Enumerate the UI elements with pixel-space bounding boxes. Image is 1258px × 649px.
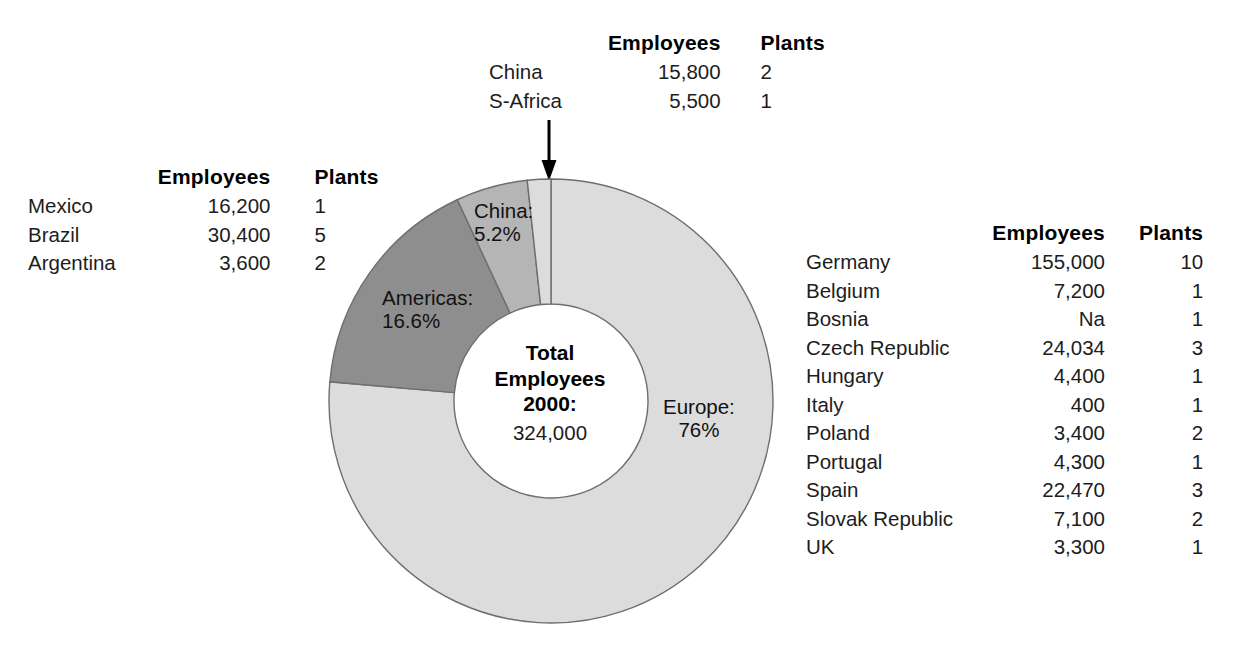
column-header-employees: Employees	[608, 32, 761, 62]
table-row: China 15,800 2	[489, 62, 827, 91]
cell-plants: 2	[761, 62, 827, 91]
table-row: Poland3,4002	[806, 423, 1203, 452]
cell-country: Poland	[806, 423, 979, 452]
cell-plants: 2	[1139, 509, 1203, 538]
slice-label-china-name: China:	[474, 199, 533, 222]
center-label-line3: 2000:	[452, 391, 648, 417]
cell-plants: 3	[1139, 480, 1203, 509]
table-europe-body: Germany155,00010Belgium7,2001BosniaNa1Cz…	[806, 252, 1203, 566]
column-header-region	[489, 32, 608, 62]
cell-country: Hungary	[806, 366, 979, 395]
arrow-down-glyph	[536, 120, 562, 182]
column-header-region	[28, 166, 158, 196]
cell-employees: 22,470	[979, 480, 1139, 509]
cell-plants: 1	[1139, 395, 1203, 424]
center-label-line2: Employees	[452, 366, 648, 392]
table-row: Hungary4,4001	[806, 366, 1203, 395]
cell-plants: 1	[1139, 281, 1203, 310]
center-label-line1: Total	[452, 340, 648, 366]
slice-label-americas: Americas: 16.6%	[382, 287, 473, 333]
cell-plants: 1	[761, 91, 827, 120]
table-row: Italy4001	[806, 395, 1203, 424]
slice-label-americas-percent: 16.6%	[382, 309, 440, 332]
cell-employees: 3,300	[979, 537, 1139, 566]
cell-plants: 1	[1139, 366, 1203, 395]
cell-employees: 4,400	[979, 366, 1139, 395]
slice-label-china-percent: 5.2%	[474, 222, 521, 245]
cell-employees: 3,600	[158, 253, 315, 282]
cell-plants: 1	[1139, 537, 1203, 566]
cell-employees: 24,034	[979, 338, 1139, 367]
cell-employees: 5,500	[608, 91, 761, 120]
column-header-region	[806, 222, 979, 252]
table-row: Portugal4,3001	[806, 452, 1203, 481]
cell-employees: 30,400	[158, 225, 315, 254]
cell-employees: 7,200	[979, 281, 1139, 310]
table-row: UK3,3001	[806, 537, 1203, 566]
cell-country: Bosnia	[806, 309, 979, 338]
table-row: Slovak Republic7,1002	[806, 509, 1203, 538]
column-header-employees: Employees	[979, 222, 1139, 252]
cell-country: UK	[806, 537, 979, 566]
table-row: Germany155,00010	[806, 252, 1203, 281]
table-europe-grid: Employees Plants Germany155,00010Belgium…	[806, 222, 1203, 566]
center-label-total-value: 324,000	[452, 420, 648, 445]
cell-country: Mexico	[28, 196, 158, 225]
cell-country: S-Africa	[489, 91, 608, 120]
cell-plants: 1	[1139, 452, 1203, 481]
cell-country: Portugal	[806, 452, 979, 481]
cell-country: Italy	[806, 395, 979, 424]
donut-center-label: Total Employees 2000: 324,000	[452, 340, 648, 445]
slice-label-china: China: 5.2%	[474, 200, 533, 246]
slice-label-europe-percent: 76%	[678, 418, 719, 441]
table-header-row: Employees Plants	[806, 222, 1203, 252]
cell-country: Germany	[806, 252, 979, 281]
table-row: BosniaNa1	[806, 309, 1203, 338]
cell-employees: 4,300	[979, 452, 1139, 481]
chart-canvas: Employees Plants China 15,800 2 S-Africa…	[0, 0, 1258, 649]
table-header-row: Employees Plants	[489, 32, 827, 62]
cell-employees: 155,000	[979, 252, 1139, 281]
cell-plants: 3	[1139, 338, 1203, 367]
table-europe: Employees Plants Germany155,00010Belgium…	[806, 222, 1203, 566]
table-asia-africa: Employees Plants China 15,800 2 S-Africa…	[489, 32, 827, 119]
slice-label-americas-name: Americas:	[382, 286, 473, 309]
cell-employees: 16,200	[158, 196, 315, 225]
cell-employees: 400	[979, 395, 1139, 424]
table-row: S-Africa 5,500 1	[489, 91, 827, 120]
table-row: Belgium7,2001	[806, 281, 1203, 310]
cell-plants: 1	[1139, 309, 1203, 338]
cell-plants: 2	[1139, 423, 1203, 452]
slice-label-europe: Europe: 76%	[663, 396, 735, 442]
arrow-down-icon	[536, 120, 562, 182]
table-row: Spain22,4703	[806, 480, 1203, 509]
cell-employees: Na	[979, 309, 1139, 338]
cell-country: Brazil	[28, 225, 158, 254]
slice-label-europe-name: Europe:	[663, 395, 735, 418]
cell-employees: 7,100	[979, 509, 1139, 538]
cell-country: Belgium	[806, 281, 979, 310]
cell-country: Argentina	[28, 253, 158, 282]
table-asia-africa-grid: Employees Plants China 15,800 2 S-Africa…	[489, 32, 827, 119]
cell-country: China	[489, 62, 608, 91]
cell-country: Czech Republic	[806, 338, 979, 367]
table-row: Czech Republic24,0343	[806, 338, 1203, 367]
column-header-plants: Plants	[1139, 222, 1203, 252]
cell-employees: 3,400	[979, 423, 1139, 452]
table-asia-africa-body: China 15,800 2 S-Africa 5,500 1	[489, 62, 827, 119]
cell-country: Spain	[806, 480, 979, 509]
cell-plants: 10	[1139, 252, 1203, 281]
cell-country: Slovak Republic	[806, 509, 979, 538]
cell-employees: 15,800	[608, 62, 761, 91]
column-header-plants: Plants	[761, 32, 827, 62]
column-header-employees: Employees	[158, 166, 315, 196]
